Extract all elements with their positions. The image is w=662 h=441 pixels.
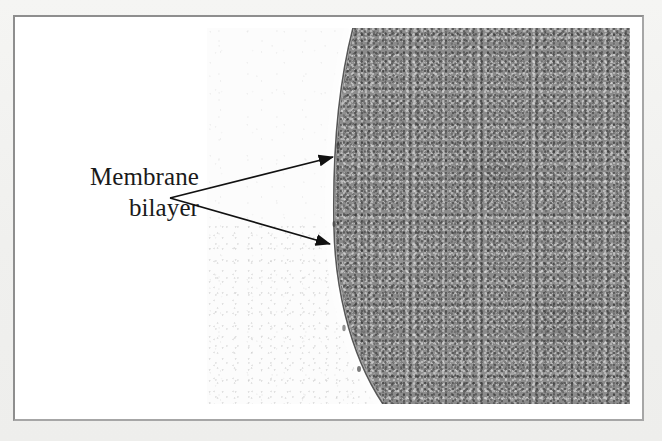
figure-plate: Membrane bilayer bbox=[15, 17, 642, 419]
figure-frame: Membrane bilayer bbox=[13, 15, 644, 421]
page-background: Membrane bilayer bbox=[0, 0, 662, 441]
label-line-1: Membrane bbox=[39, 161, 199, 192]
label-line-2: bilayer bbox=[39, 192, 199, 223]
electron-micrograph-image bbox=[207, 28, 630, 404]
label-membrane-bilayer: Membrane bilayer bbox=[39, 161, 199, 223]
